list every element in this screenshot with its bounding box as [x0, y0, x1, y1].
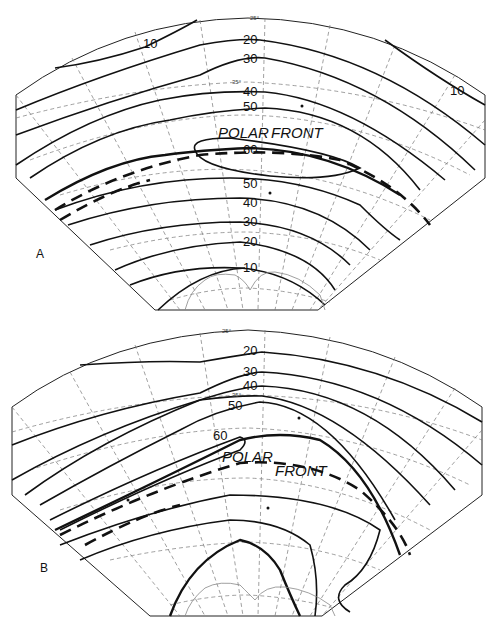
lat-35-line: [12, 395, 482, 440]
contour-south-1: [60, 495, 380, 612]
lat-label-35: 35°: [232, 79, 242, 85]
lat-70-line: [170, 595, 330, 607]
contour-label-30-south: 30: [243, 214, 257, 229]
polar-front-label-front: FRONT: [271, 124, 324, 141]
meridian: [16, 95, 180, 310]
contour-label-40: 40: [243, 378, 257, 393]
coastline: [185, 583, 335, 616]
meridian: [310, 75, 455, 310]
map-figure: 25° 35° 10 10 20 30 40 50 POLAR FRONT 60…: [0, 0, 497, 626]
meridian: [310, 388, 455, 616]
contour-label-20-south: 20: [243, 234, 257, 249]
contour-label-20: 20: [243, 32, 257, 47]
contour-label-50-south: 50: [243, 176, 257, 191]
meridian: [275, 25, 330, 310]
station-dot: [298, 417, 301, 420]
panel-label-a: A: [36, 247, 44, 261]
contour-label-30: 30: [243, 51, 257, 66]
panel-label-b: B: [40, 561, 48, 575]
lat-label-25: 25°: [250, 15, 260, 21]
contour-label-30: 30: [243, 364, 257, 379]
contour-50: [40, 402, 395, 520]
contour-label-10-south: 10: [243, 260, 257, 275]
station-dot: [301, 105, 304, 108]
contour-label-40: 40: [243, 84, 257, 99]
contour-10-right: [385, 40, 485, 105]
meridian: [292, 357, 395, 616]
meridian: [200, 20, 243, 310]
station-dot: [129, 186, 132, 189]
panel-b: 25° 35° 20 30 40 50 60 POLAR FRONT B: [12, 328, 482, 616]
station-dot: [269, 192, 272, 195]
contour-label-60: 60: [243, 142, 257, 157]
meridian: [318, 120, 485, 310]
lat-label-25: 25°: [222, 328, 232, 334]
contour-label-60: 60: [213, 428, 227, 443]
contour-label-40-south: 40: [243, 195, 257, 210]
contour-label-50: 50: [243, 99, 257, 114]
meridian: [258, 18, 265, 310]
contour-label-50: 50: [228, 398, 242, 413]
contour-10: [55, 20, 197, 68]
contour-south-3: [170, 540, 300, 616]
station-dot: [267, 507, 270, 510]
meridian: [70, 372, 205, 616]
meridian: [322, 430, 482, 616]
contour-label-10-right: 10: [450, 83, 464, 98]
contour-label-10: 10: [143, 36, 157, 51]
polar-front-label-polar: POLAR: [218, 124, 269, 141]
contour-20-south: [115, 242, 335, 290]
panel-a: 25° 35° 10 10 20 30 40 50 POLAR FRONT 60…: [16, 15, 485, 310]
station-dot: [127, 499, 130, 502]
lat-60-line: [110, 542, 380, 570]
contour-label-20: 20: [243, 343, 257, 358]
polar-front-label-front: FRONT: [275, 462, 328, 479]
contour-40-south: [68, 198, 370, 250]
contour-map-panels: 25° 35° 10 10 20 30 40 50 POLAR FRONT 60…: [0, 0, 497, 626]
polar-front-label-polar: POLAR: [222, 448, 273, 465]
